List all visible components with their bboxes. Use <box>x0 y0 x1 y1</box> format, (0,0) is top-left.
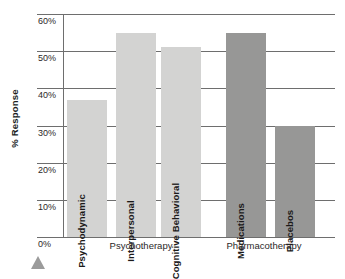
y-tick-label-0: 0% <box>38 239 51 250</box>
group-label-pharmacotherapy: Pharmacotherapy <box>204 240 324 251</box>
y-tick-label-60: 60% <box>38 16 56 27</box>
plot-area: Psychodynamic Interpersonal Cognitive Be… <box>63 14 335 237</box>
triangle-marker-icon <box>31 256 45 269</box>
y-axis-title: % Response <box>9 84 20 154</box>
bar-label-interpersonal: Interpersonal <box>125 200 136 261</box>
y-tick-label-40: 40% <box>38 90 56 101</box>
y-tick-label-30: 30% <box>38 128 56 139</box>
y-tick-label-20: 20% <box>38 165 56 176</box>
bar-placebos: Placebos <box>275 126 315 238</box>
bar-medications: Medications <box>226 33 266 237</box>
bar-interpersonal: Interpersonal <box>116 33 156 237</box>
bar-cognitive-behavioral: Cognitive Behavioral <box>161 47 201 237</box>
bar-label-psychodynamic: Psychodynamic <box>76 194 87 268</box>
bar-label-cognitive-behavioral: Cognitive Behavioral <box>170 183 181 279</box>
y-tick-label-10: 10% <box>38 202 56 213</box>
bar-psychodynamic: Psychodynamic <box>67 100 107 238</box>
y-tick-label-50: 50% <box>38 53 56 64</box>
group-label-psychotherapy: Psychotherapy <box>86 240 196 251</box>
